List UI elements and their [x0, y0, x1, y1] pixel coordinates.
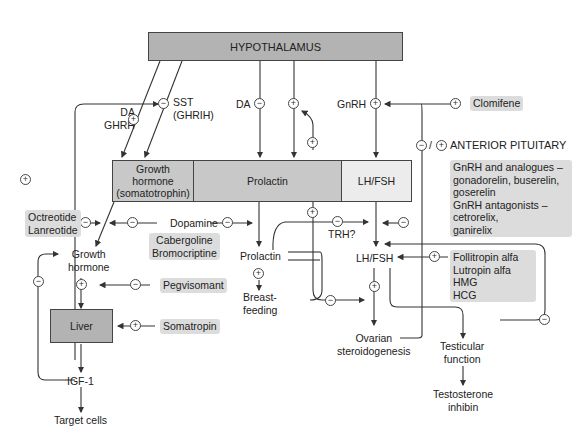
testicular-node: Testicularfunction	[440, 340, 484, 365]
minus-sign-icon: −	[158, 98, 169, 109]
breastfeeding-node: Breast-feeding	[243, 291, 277, 316]
igf1-node: IGF-1	[67, 375, 94, 388]
drug-gnrh-analogues: GnRH and analogues –gonadorelin, buserel…	[450, 160, 572, 237]
prolactin-box: Prolactin	[193, 160, 342, 202]
slash-label: /	[429, 139, 432, 152]
plus-sign-icon: +	[288, 98, 299, 109]
minus-sign-icon: −	[33, 276, 44, 287]
da-label: DA	[236, 98, 251, 111]
plus-sign-icon: +	[307, 207, 318, 218]
drug-clomifene: Clomifene	[470, 96, 523, 111]
hypothalamus-box: HYPOTHALAMUS	[148, 32, 403, 61]
drug-follitropin: Follitropin alfaLutropin alfaHMGHCG	[450, 250, 536, 302]
drug-pegvisomant: Pegvisomant	[160, 278, 227, 293]
prolactin-node: Prolactin	[240, 250, 281, 263]
lhfsh-box: LH/FSH	[341, 160, 412, 202]
gnrh-label: GnRH	[337, 98, 366, 111]
plus-sign-icon: +	[307, 137, 318, 148]
target-cells-node: Target cells	[54, 414, 107, 427]
gh-box-line2: hormone	[116, 175, 190, 187]
minus-sign-icon: −	[332, 216, 343, 227]
plus-sign-icon: +	[369, 281, 380, 292]
minus-sign-icon: −	[398, 217, 409, 228]
growth-hormone-node: Growthhormone	[68, 248, 109, 273]
drug-somatropin: Somatropin	[160, 319, 220, 334]
plus-sign-icon: +	[130, 320, 141, 331]
plus-sign-icon: +	[76, 279, 87, 290]
liver-box: Liver	[50, 309, 113, 343]
gh-box-line1: Growth	[116, 163, 190, 175]
sst-label: SST(GHRIH)	[173, 96, 214, 121]
growth-hormone-box: Growthhormone(somatotrophin)	[112, 160, 194, 202]
plus-sign-icon: +	[429, 251, 440, 262]
gh-box-line3: (somatotrophin)	[116, 187, 190, 199]
lhfsh-node: LH/FSH	[356, 252, 393, 265]
ovarian-node: Ovariansteroidogenesis	[337, 332, 411, 357]
plus-sign-icon: +	[436, 140, 447, 151]
minus-sign-icon: −	[416, 140, 427, 151]
testosterone-node: Testosteroneinhibin	[433, 388, 493, 413]
minus-sign-icon: −	[222, 217, 233, 228]
plus-sign-icon: +	[450, 98, 461, 109]
dopamine-label: Dopamine	[170, 217, 218, 230]
drug-octreotide: OctreotideLanreotide	[25, 210, 81, 237]
minus-sign-icon: −	[539, 314, 550, 325]
minus-sign-icon: −	[127, 217, 138, 228]
plus-sign-icon: +	[20, 174, 31, 185]
plus-sign-icon: +	[370, 98, 381, 109]
trh-label: TRH?	[328, 228, 355, 241]
minus-sign-icon: −	[130, 279, 141, 290]
minus-sign-icon: −	[325, 295, 336, 306]
anterior-pituitary-label: ANTERIOR PITUITARY	[450, 139, 566, 152]
minus-sign-icon: −	[80, 217, 91, 228]
drug-cabergoline: CabergolineBromocriptine	[149, 233, 220, 260]
minus-sign-icon: −	[254, 98, 265, 109]
plus-sign-icon: +	[128, 114, 139, 125]
plus-sign-icon: +	[253, 268, 264, 279]
